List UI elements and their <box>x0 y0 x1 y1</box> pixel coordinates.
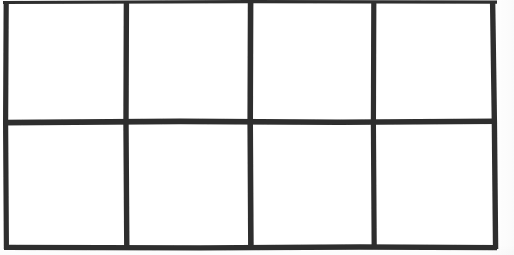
grid-cell-r1c4[interactable] <box>373 2 494 122</box>
grid-cell-r1c3[interactable] <box>250 2 373 122</box>
grid-cell-r2c1[interactable] <box>4 122 125 247</box>
grid-cell-r2c4[interactable] <box>373 122 494 247</box>
worksheet-canvas <box>0 0 514 255</box>
grid-cell-r2c2[interactable] <box>125 122 250 247</box>
grid-cell-r1c1[interactable] <box>4 2 125 122</box>
grid-cell-r2c3[interactable] <box>250 122 373 247</box>
grid-cell-r1c2[interactable] <box>125 2 250 122</box>
